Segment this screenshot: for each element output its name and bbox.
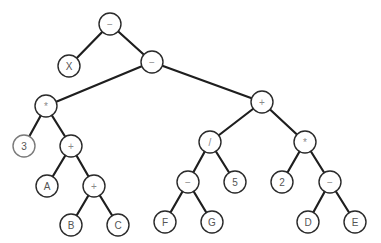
node-label: * bbox=[44, 101, 48, 112]
node-label: − bbox=[107, 19, 113, 30]
node-label: 3 bbox=[21, 141, 27, 152]
node-label: D bbox=[304, 217, 311, 228]
tree-edge bbox=[152, 62, 262, 102]
operator-node: − bbox=[141, 51, 163, 73]
node-label: + bbox=[259, 97, 265, 108]
operator-node: * bbox=[294, 131, 316, 153]
operand-node: X bbox=[58, 55, 80, 77]
operator-node: * bbox=[35, 95, 57, 117]
operand-node: 2 bbox=[271, 171, 293, 193]
node-label: X bbox=[66, 61, 73, 72]
operand-node: 3 bbox=[13, 135, 35, 157]
node-label: / bbox=[209, 137, 212, 148]
node-label: G bbox=[208, 217, 216, 228]
node-label: − bbox=[185, 177, 191, 188]
operator-node: − bbox=[319, 171, 341, 193]
node-label: B bbox=[68, 220, 75, 231]
operator-node: + bbox=[251, 91, 273, 113]
operand-node: D bbox=[297, 211, 319, 233]
operand-node: E bbox=[344, 211, 366, 233]
operator-node: − bbox=[99, 13, 121, 35]
node-label: E bbox=[352, 217, 359, 228]
operand-node: F bbox=[154, 211, 176, 233]
node-label: − bbox=[327, 177, 333, 188]
operand-node: A bbox=[36, 175, 58, 197]
node-label: + bbox=[68, 141, 74, 152]
operand-node: B bbox=[60, 214, 82, 236]
node-label: 5 bbox=[232, 177, 238, 188]
node-label: C bbox=[114, 220, 121, 231]
operand-node: G bbox=[201, 211, 223, 233]
node-label: 2 bbox=[279, 177, 285, 188]
expression-tree-diagram: −X−*+3+/*A+−52−BCFGDE bbox=[0, 0, 381, 243]
operator-node: + bbox=[83, 175, 105, 197]
node-label: * bbox=[303, 137, 307, 148]
operand-node: C bbox=[107, 214, 129, 236]
nodes-layer: −X−*+3+/*A+−52−BCFGDE bbox=[13, 13, 366, 236]
node-label: A bbox=[44, 181, 51, 192]
operator-node: − bbox=[177, 171, 199, 193]
operator-node: + bbox=[60, 135, 82, 157]
node-label: F bbox=[162, 217, 168, 228]
operator-node: / bbox=[199, 131, 221, 153]
node-label: − bbox=[149, 57, 155, 68]
node-label: + bbox=[91, 181, 97, 192]
operand-node: 5 bbox=[224, 171, 246, 193]
edges-layer bbox=[24, 24, 355, 225]
